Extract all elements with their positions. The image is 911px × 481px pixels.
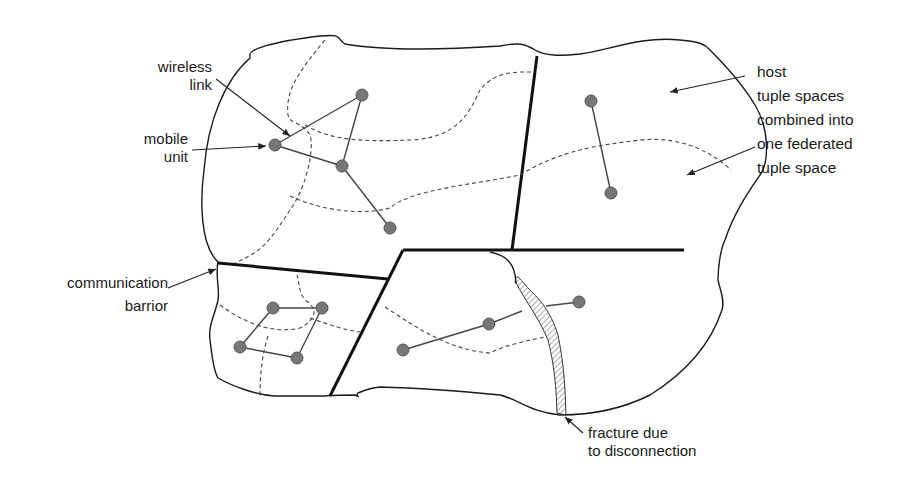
fracture-edge bbox=[490, 252, 516, 283]
region-outline bbox=[202, 35, 767, 415]
label-mobile-unit: mobile unit bbox=[110, 130, 188, 166]
host-boundary bbox=[260, 336, 268, 396]
barrier-diagonal-bottom bbox=[330, 250, 403, 396]
arrow-federated bbox=[687, 147, 755, 175]
host-boundary bbox=[310, 318, 360, 332]
arrow-wireless-link bbox=[216, 79, 290, 136]
label-wireless-link: wireless link bbox=[130, 58, 212, 94]
host-boundary bbox=[220, 275, 314, 330]
arrow-fracture bbox=[565, 417, 583, 433]
label-fracture: fracture due to disconnection bbox=[588, 424, 696, 460]
arrow-host bbox=[670, 76, 745, 92]
arrow-mobile-unit bbox=[192, 146, 266, 150]
arrow-barrier bbox=[168, 269, 216, 288]
wireless-links bbox=[240, 95, 611, 358]
mobile-units bbox=[234, 89, 617, 364]
host-boundary bbox=[235, 40, 325, 263]
host-boundary bbox=[290, 139, 731, 211]
barrier-vertical-top bbox=[512, 56, 537, 250]
host-boundary bbox=[385, 307, 545, 353]
host-boundary bbox=[305, 72, 533, 141]
fracture bbox=[515, 277, 566, 415]
barrier-horizontal-left bbox=[218, 263, 388, 279]
label-communication-barrier: communication barrior bbox=[30, 271, 168, 317]
label-host-tuple-spaces: host tuple spaces combined into one fede… bbox=[757, 60, 854, 180]
